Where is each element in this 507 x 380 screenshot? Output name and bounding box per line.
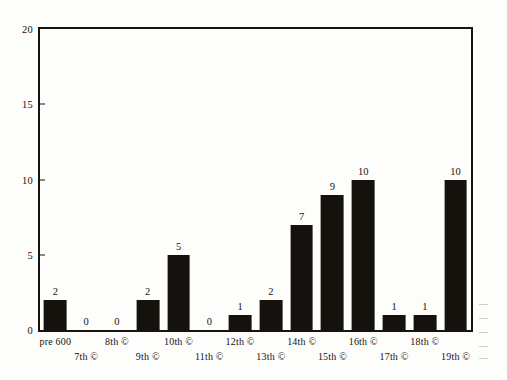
scan-artifact-dash: [479, 332, 488, 333]
bar-slot: 1: [409, 29, 440, 330]
x-tick-label: 11th ©: [195, 351, 224, 362]
bar-slot: 10: [440, 29, 471, 330]
y-tick-label: 5: [28, 249, 33, 260]
bar-slot: 9: [317, 29, 348, 330]
bar: [444, 180, 467, 331]
bar: [260, 300, 283, 330]
scan-artifact-dash: [479, 358, 488, 359]
bar-value-label: 0: [114, 316, 119, 327]
x-tick-label: 12th ©: [226, 336, 255, 347]
x-tick-label: 13th ©: [256, 351, 285, 362]
bar-value-label: 1: [391, 301, 396, 312]
bar: [321, 195, 344, 330]
scan-artifact-dash: [479, 318, 488, 319]
bar-slot: 2: [132, 29, 163, 330]
y-tick-label: 15: [22, 99, 33, 110]
x-tick-label: 8th ©: [105, 336, 129, 347]
bar-slot: 1: [225, 29, 256, 330]
x-tick-label: pre 600: [40, 336, 72, 347]
bar-slot: 0: [102, 29, 133, 330]
x-tick-label: 17th ©: [379, 351, 408, 362]
x-tick-label: 16th ©: [349, 336, 378, 347]
scan-artifact-dash: [479, 346, 488, 347]
bar: [167, 255, 190, 330]
y-axis: 05101520: [0, 27, 33, 332]
bar-slot: 1: [379, 29, 410, 330]
bar: [44, 300, 67, 330]
bar-value-label: 9: [330, 181, 335, 192]
bar: [352, 180, 375, 331]
chart-page: 05101520 2002501279101110 pre 6007th ©8t…: [0, 0, 507, 380]
scan-artifact-marks: [477, 300, 503, 370]
y-tick-label: 0: [28, 325, 33, 336]
bar-slot: 7: [286, 29, 317, 330]
y-tick-mark: [38, 254, 45, 255]
bar-series: 2002501279101110: [40, 29, 471, 330]
bar: [290, 225, 313, 330]
bar-value-label: 0: [84, 316, 89, 327]
bar-slot: 2: [256, 29, 287, 330]
x-tick-label: 9th ©: [136, 351, 160, 362]
x-axis: pre 6007th ©8th ©9th ©10th ©11th ©12th ©…: [40, 336, 471, 378]
x-tick-label: 7th ©: [74, 351, 98, 362]
bar-value-label: 2: [145, 286, 150, 297]
bar-slot: 5: [163, 29, 194, 330]
bar-value-label: 1: [422, 301, 427, 312]
bar-value-label: 0: [207, 316, 212, 327]
bar-value-label: 10: [450, 166, 461, 177]
y-tick-mark: [38, 179, 45, 180]
bar-value-label: 1: [237, 301, 242, 312]
bar: [136, 300, 159, 330]
bar-value-label: 2: [268, 286, 273, 297]
bar-value-label: 10: [358, 166, 369, 177]
x-tick-label: 19th ©: [441, 351, 470, 362]
bar-slot: 10: [348, 29, 379, 330]
scan-artifact-dash: [479, 304, 488, 305]
bar-slot: 0: [71, 29, 102, 330]
bar-value-label: 5: [176, 241, 181, 252]
bar: [413, 315, 436, 330]
bar-value-label: 7: [299, 211, 304, 222]
x-tick-label: 14th ©: [287, 336, 316, 347]
x-tick-label: 15th ©: [318, 351, 347, 362]
bar: [383, 315, 406, 330]
x-tick-label: 18th ©: [410, 336, 439, 347]
bar: [229, 315, 252, 330]
bar-slot: 0: [194, 29, 225, 330]
x-tick-label: 10th ©: [164, 336, 193, 347]
y-tick-mark: [38, 104, 45, 105]
y-tick-label: 20: [22, 24, 33, 35]
y-tick-label: 10: [22, 174, 33, 185]
bar-value-label: 2: [53, 286, 58, 297]
